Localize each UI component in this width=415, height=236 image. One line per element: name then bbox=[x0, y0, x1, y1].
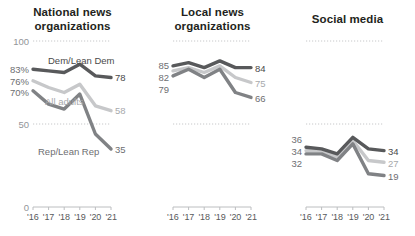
panel-title-line1: Local news bbox=[145, 6, 280, 20]
panel-title-local: Local news organizations bbox=[145, 6, 280, 33]
start-value-rep: 32 bbox=[278, 158, 302, 169]
x-tick-19: '19 bbox=[72, 212, 88, 222]
start-value-all: 82 bbox=[143, 72, 169, 83]
x-tick-17: '17 bbox=[314, 212, 330, 222]
end-value-dem: 78 bbox=[115, 72, 126, 83]
panel-title-line2: organizations bbox=[145, 20, 280, 34]
end-value-rep: 66 bbox=[255, 93, 266, 104]
panel-title-line1: Social media bbox=[280, 13, 415, 27]
start-value-all: 34 bbox=[278, 146, 302, 157]
x-tick-18: '18 bbox=[329, 212, 345, 222]
x-tick-17: '17 bbox=[41, 212, 57, 222]
x-tick-18: '18 bbox=[56, 212, 72, 222]
end-value-all: 75 bbox=[255, 78, 266, 89]
x-tick-20: '20 bbox=[228, 212, 244, 222]
x-tick-16: '16 bbox=[25, 212, 41, 222]
x-tick-20: '20 bbox=[88, 212, 104, 222]
panel-national-news-organizations: National news organizations bbox=[0, 0, 145, 236]
panel-title-social: Social media bbox=[280, 13, 415, 27]
x-tick-21: '21 bbox=[376, 212, 392, 222]
series-line-dem-lean-dem bbox=[33, 64, 111, 77]
x-axis-labels-social: '16 '17 '18 '19 '20 '21 bbox=[298, 212, 392, 222]
x-tick-17: '17 bbox=[181, 212, 197, 222]
series-label-dem-lean-dem: Dem/Lean Dem bbox=[48, 55, 115, 66]
end-value-all: 27 bbox=[388, 158, 399, 169]
plot-svg-social bbox=[306, 41, 384, 207]
start-value-dem: 36 bbox=[278, 134, 302, 145]
end-value-dem: 84 bbox=[255, 63, 266, 74]
series-label-rep-lean-rep: Rep/Lean Rep bbox=[38, 146, 99, 157]
x-tick-18: '18 bbox=[196, 212, 212, 222]
panel-title-line2: organizations bbox=[0, 20, 145, 34]
start-value-rep: 70% bbox=[0, 87, 29, 98]
plot-svg-local bbox=[173, 41, 251, 207]
x-tick-19: '19 bbox=[345, 212, 361, 222]
start-value-dem: 85 bbox=[143, 60, 169, 71]
panel-local-news-organizations: Local news organizations bbox=[145, 0, 280, 236]
x-tick-21: '21 bbox=[103, 212, 119, 222]
panel-title-national: National news organizations bbox=[0, 6, 145, 33]
end-value-rep: 35 bbox=[115, 144, 126, 155]
small-multiples-chart: National news organizations bbox=[0, 0, 415, 236]
x-tick-21: '21 bbox=[243, 212, 259, 222]
series-line-dem-lean-dem bbox=[173, 61, 251, 68]
y-axis-label-50: 50 bbox=[4, 119, 29, 130]
plot-area-social bbox=[306, 41, 384, 207]
end-value-rep: 19 bbox=[388, 171, 399, 182]
series-label-all-adults: All adults bbox=[45, 96, 84, 107]
x-axis-labels-national: '16 '17 '18 '19 '20 '21 bbox=[25, 212, 119, 222]
end-value-dem: 34 bbox=[388, 146, 399, 157]
series-line-rep-lean-rep bbox=[173, 69, 251, 97]
panel-title-line1: National news bbox=[0, 6, 145, 20]
x-tick-16: '16 bbox=[165, 212, 181, 222]
x-tick-16: '16 bbox=[298, 212, 314, 222]
panel-social-media: Social media 36 34 bbox=[280, 0, 415, 236]
x-tick-19: '19 bbox=[212, 212, 228, 222]
x-tick-20: '20 bbox=[361, 212, 377, 222]
end-value-all: 58 bbox=[115, 105, 126, 116]
x-axis-labels-local: '16 '17 '18 '19 '20 '21 bbox=[165, 212, 259, 222]
start-value-dem: 83% bbox=[0, 64, 29, 75]
start-value-rep: 79 bbox=[143, 84, 169, 95]
plot-area-local bbox=[173, 41, 251, 207]
y-axis-label-100: 100 bbox=[4, 36, 29, 47]
start-value-all: 76% bbox=[0, 76, 29, 87]
